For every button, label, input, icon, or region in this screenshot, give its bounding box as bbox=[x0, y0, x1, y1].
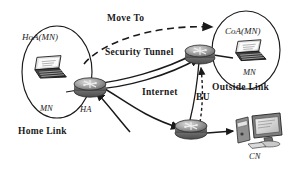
label-bu: BU bbox=[196, 93, 210, 103]
cn-access-link bbox=[207, 131, 233, 133]
label-mn-home: MN bbox=[40, 104, 53, 113]
label-cn: CN bbox=[249, 152, 260, 161]
label-move-to: Move To bbox=[107, 14, 144, 24]
fa-internet-link bbox=[190, 62, 199, 120]
label-internet: Internet bbox=[142, 88, 178, 98]
label-coa-mn: CoA(MN) bbox=[225, 27, 261, 36]
router-icon bbox=[175, 120, 207, 139]
label-security-tunnel: Security Tunnel bbox=[105, 48, 174, 58]
label-home-link: Home Link bbox=[18, 127, 67, 137]
desktop-icon bbox=[236, 113, 282, 148]
label-outside-link: Outside Link bbox=[212, 83, 269, 93]
router-icon bbox=[185, 45, 215, 64]
network-diagram: Move To Security Tunnel Internet BU Outs… bbox=[0, 0, 292, 172]
label-hoa-mn: HoA(MN) bbox=[22, 33, 58, 42]
laptop-icon bbox=[234, 37, 266, 63]
label-ha: HA bbox=[80, 105, 91, 114]
router-icon bbox=[74, 78, 106, 97]
laptop-icon bbox=[33, 53, 66, 81]
label-mn-foreign: MN bbox=[243, 68, 256, 77]
security-tunnel-link bbox=[92, 53, 199, 89]
